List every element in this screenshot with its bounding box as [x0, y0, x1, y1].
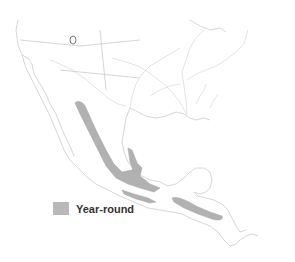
legend: Year-round [53, 202, 134, 215]
legend-label-year-round: Year-round [76, 203, 134, 215]
range-map [0, 0, 295, 262]
legend-swatch-year-round [53, 202, 69, 215]
lake [70, 36, 76, 44]
